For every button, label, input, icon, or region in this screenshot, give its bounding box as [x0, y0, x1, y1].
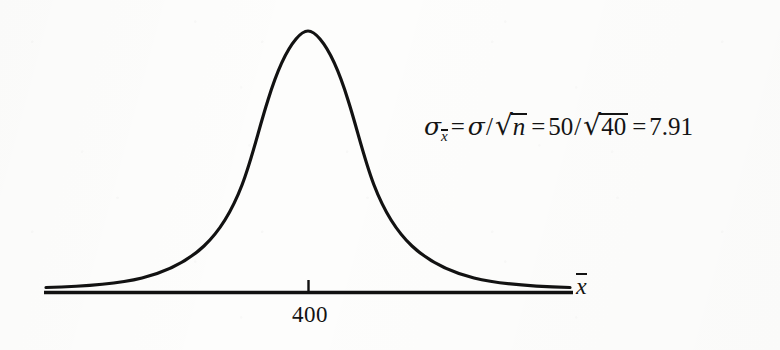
x-axis-variable-label: x	[576, 272, 587, 300]
equals-sign-1: =	[448, 113, 468, 140]
normal-curve-path	[46, 31, 570, 288]
radical-40: √40	[583, 112, 628, 140]
radicand-n: n	[511, 112, 528, 139]
normal-curve-figure: 400 x σx=σ/√n=50/√40=7.91	[0, 0, 780, 350]
division-slash-1: /	[485, 113, 494, 140]
equals-sign-3: =	[629, 113, 649, 140]
standard-error-formula: σx=σ/√n=50/√40=7.91	[424, 112, 693, 144]
radical-n: √n	[495, 112, 527, 140]
numerator-value: 50	[548, 113, 573, 140]
x-axis-tick-label-400: 400	[260, 302, 360, 328]
division-slash-2: /	[573, 113, 582, 140]
standard-error-result: 7.91	[649, 113, 693, 140]
x-bar-symbol: x	[576, 272, 587, 300]
equals-sign-2: =	[528, 113, 548, 140]
sigma-subscript-x-bar: x	[441, 128, 448, 144]
radicand-40: 40	[599, 112, 628, 139]
sigma-symbol-2: σ	[468, 112, 485, 141]
sigma-symbol: σ	[424, 112, 441, 141]
distribution-plot	[0, 0, 780, 350]
